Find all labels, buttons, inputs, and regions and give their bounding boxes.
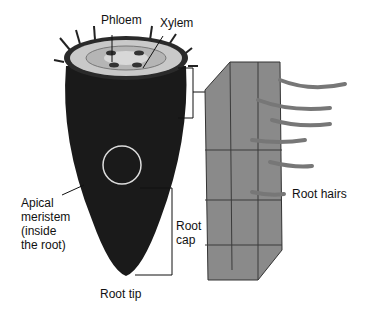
label-root-hairs: Root hairs <box>292 187 347 201</box>
label-phloem: Phloem <box>101 13 142 27</box>
label-apical-meristem: Apical meristem (inside the root) <box>21 196 70 252</box>
label-root-cap: Root cap <box>176 219 201 247</box>
root-diagram <box>0 0 368 310</box>
root-hair-tissue <box>205 62 345 280</box>
label-xylem: Xylem <box>160 16 193 30</box>
label-root-tip: Root tip <box>100 287 141 301</box>
